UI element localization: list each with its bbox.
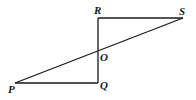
label-s: S — [179, 5, 185, 17]
label-o: O — [100, 51, 108, 63]
segment-ps — [15, 18, 183, 83]
label-q: Q — [100, 79, 108, 91]
label-r: R — [93, 4, 101, 16]
geometry-diagram: R S O P Q — [0, 0, 196, 100]
label-p: P — [8, 83, 15, 95]
